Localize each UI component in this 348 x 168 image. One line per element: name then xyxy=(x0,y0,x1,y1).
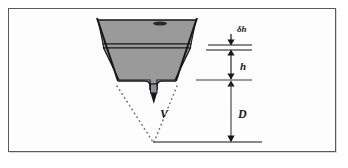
funnel-floor-right xyxy=(157,81,176,90)
funnel-floor-left xyxy=(118,81,150,90)
outlet-nozzle xyxy=(151,84,158,93)
label-h: h xyxy=(240,61,246,72)
efflux-jet-arrow-icon xyxy=(151,93,158,104)
label-V: V xyxy=(160,108,168,120)
label-delta-h: δh xyxy=(237,25,247,34)
h-arrowhead-down-icon xyxy=(227,74,234,80)
surface-mark-icon xyxy=(153,21,167,25)
liquid-upper-layer xyxy=(98,20,196,44)
D-arrowhead-down-icon xyxy=(227,135,234,142)
cone-dotted-left xyxy=(117,86,153,142)
label-D: D xyxy=(238,108,247,120)
figure-root: δh h D V xyxy=(0,0,348,168)
figure-drawing xyxy=(0,0,348,168)
